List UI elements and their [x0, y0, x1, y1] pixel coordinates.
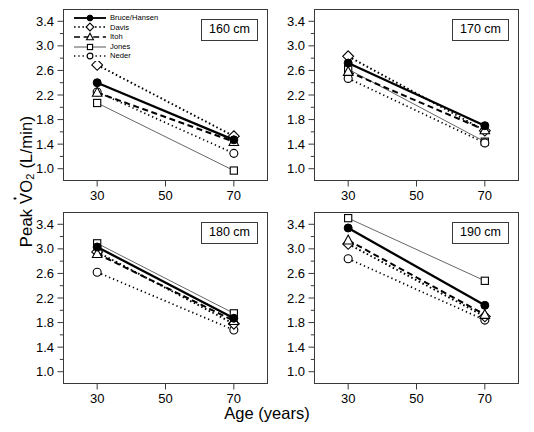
legend-item-itoh: Itoh	[73, 32, 158, 42]
y-tick-label: 2.6	[271, 267, 305, 280]
x-tick-label: 30	[77, 392, 117, 405]
series-line-itoh	[97, 254, 234, 321]
legend: Bruce/HansenDavisItohJonesNeder	[73, 13, 158, 61]
y-tick-label: 2.2	[20, 89, 54, 102]
y-tick-label: 1.0	[20, 162, 54, 175]
data-point-marker-open-square	[345, 215, 352, 222]
data-point-marker-open-circle	[344, 255, 352, 263]
x-tick-label: 50	[397, 189, 437, 202]
series-line-jones	[97, 243, 234, 313]
y-tick-label: 1.4	[271, 138, 305, 151]
panel-tag-190-cm: 190 cm	[452, 222, 509, 244]
legend-key-filled-circle	[73, 13, 107, 23]
legend-key-open-square	[73, 42, 107, 52]
y-tick-label: 1.4	[20, 341, 54, 354]
legend-label: Davis	[110, 24, 129, 32]
y-tick-label: 3.4	[271, 218, 305, 231]
y-tick-label: 1.0	[20, 365, 54, 378]
legend-key-open-diamond	[73, 22, 107, 32]
y-tick-label: 1.4	[20, 138, 54, 151]
data-point-marker-open-square	[87, 44, 92, 49]
v-dot-accent: V	[17, 193, 36, 204]
y-tick-label: 2.6	[20, 64, 54, 77]
y-tick-label: 3.4	[271, 15, 305, 28]
x-tick-label: 50	[146, 189, 186, 202]
x-tick-label: 70	[214, 392, 254, 405]
legend-label: Itoh	[110, 33, 123, 41]
legend-item-neder: Neder	[73, 51, 158, 61]
data-point-marker-filled-circle	[87, 15, 93, 21]
legend-item-jones: Jones	[73, 42, 158, 52]
data-point-marker-open-triangle	[343, 235, 353, 244]
y-tick-label: 1.0	[271, 365, 305, 378]
data-point-marker-open-diamond	[86, 24, 94, 32]
data-point-marker-filled-circle	[230, 314, 238, 322]
data-point-marker-open-circle	[481, 139, 489, 147]
panel-tag-180-cm: 180 cm	[201, 222, 258, 244]
series-line-bruce-hansen	[97, 247, 234, 318]
y-tick-label: 1.8	[20, 113, 54, 126]
panel-170-cm: 1.01.41.82.22.63.03.4305070170 cm	[314, 9, 519, 181]
data-point-marker-open-circle	[93, 268, 101, 276]
y-tick-label: 3.0	[20, 39, 54, 52]
y-tick-label: 2.6	[271, 64, 305, 77]
legend-label: Bruce/Hansen	[110, 14, 158, 22]
series-line-bruce-hansen	[348, 63, 485, 126]
legend-label: Jones	[110, 43, 130, 51]
y-tick-label: 3.4	[20, 15, 54, 28]
data-point-marker-filled-circle	[481, 122, 489, 130]
x-tick-label: 70	[214, 189, 254, 202]
data-point-marker-filled-circle	[93, 79, 101, 87]
y-tick-label: 1.8	[271, 113, 305, 126]
x-tick-label: 30	[77, 189, 117, 202]
y-tick-label: 2.6	[20, 267, 54, 280]
data-point-marker-open-circle	[230, 149, 238, 157]
y-tick-label: 2.2	[20, 292, 54, 305]
x-tick-label: 50	[397, 392, 437, 405]
y-tick-label: 3.0	[20, 242, 54, 255]
panel-180-cm: 1.01.41.82.22.63.03.4305070180 cm	[63, 212, 268, 384]
y-tick-label: 3.0	[271, 39, 305, 52]
x-tick-label: 30	[328, 189, 368, 202]
data-point-marker-filled-circle	[344, 59, 352, 67]
y-tick-label: 1.8	[271, 316, 305, 329]
y-tick-label: 2.2	[271, 89, 305, 102]
legend-label: Neder	[110, 52, 131, 60]
series-line-jones	[97, 103, 234, 171]
data-point-marker-filled-circle	[93, 243, 101, 251]
panel-tag-160-cm: 160 cm	[201, 19, 258, 41]
series-line-neder	[97, 92, 234, 153]
data-point-marker-open-square	[94, 99, 101, 106]
figure-multi-panel-chart: Peak VO2 (L/min) Age (years) 1.01.41.82.…	[0, 0, 534, 432]
data-point-marker-open-circle	[87, 53, 93, 59]
legend-item-bruce-hansen: Bruce/Hansen	[73, 13, 158, 23]
y-tick-label: 2.2	[271, 292, 305, 305]
x-axis-title: Age (years)	[0, 404, 534, 423]
y-tick-label: 1.0	[271, 162, 305, 175]
panel-190-cm: 1.01.41.82.22.63.03.4305070190 cm	[314, 212, 519, 384]
y-tick-label: 1.8	[20, 316, 54, 329]
series-line-itoh	[348, 240, 485, 314]
legend-key-open-circle	[73, 51, 107, 61]
series-line-neder	[348, 78, 485, 143]
y-tick-label: 3.0	[271, 242, 305, 255]
series-line-davis	[348, 244, 485, 316]
panel-tag-170-cm: 170 cm	[452, 19, 509, 41]
series-line-itoh	[348, 72, 485, 130]
data-point-marker-open-square	[481, 277, 488, 284]
series-line-neder	[97, 272, 234, 330]
x-tick-label: 30	[328, 392, 368, 405]
x-tick-label: 50	[146, 392, 186, 405]
y-axis-title-o: O	[17, 180, 35, 193]
legend-item-davis: Davis	[73, 23, 158, 33]
data-point-marker-open-square	[230, 167, 237, 174]
data-point-marker-filled-circle	[230, 136, 238, 144]
data-point-marker-filled-circle	[481, 301, 489, 309]
legend-key-open-triangle	[73, 32, 107, 42]
y-tick-label: 1.4	[271, 341, 305, 354]
data-point-marker-filled-circle	[344, 224, 352, 232]
y-tick-label: 3.4	[20, 218, 54, 231]
x-tick-label: 70	[465, 392, 505, 405]
series-line-bruce-hansen	[97, 83, 234, 140]
x-tick-label: 70	[465, 189, 505, 202]
